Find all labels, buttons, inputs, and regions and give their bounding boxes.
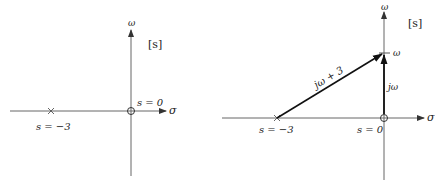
left-pole-label: s = −3 bbox=[36, 121, 71, 132]
left-plane-label: [s] bbox=[148, 38, 162, 51]
left-omega-label: ω bbox=[128, 18, 136, 28]
right-s-plane: ω [s] ω σ s = 0 s = −3 jω + 3 jω bbox=[222, 2, 435, 180]
left-zero-label: s = 0 bbox=[137, 97, 164, 108]
left-s-plane: ω [s] σ s = 0 s = −3 bbox=[10, 18, 177, 176]
vector-jw-plus-3 bbox=[277, 54, 382, 118]
right-omega-tick-label: ω bbox=[393, 48, 401, 58]
right-zero-label: s = 0 bbox=[357, 124, 384, 135]
pole-zero-diagram: ω [s] σ s = 0 s = −3 ω [s] ω σ s = 0 s =… bbox=[0, 0, 435, 187]
right-plane-label: [s] bbox=[408, 17, 422, 30]
right-vector-zero-label: jω bbox=[386, 82, 399, 92]
left-sigma-label: σ bbox=[169, 104, 177, 117]
right-pole-label: s = −3 bbox=[259, 124, 294, 135]
right-omega-label: ω bbox=[381, 2, 389, 12]
right-sigma-label: σ bbox=[427, 111, 435, 124]
